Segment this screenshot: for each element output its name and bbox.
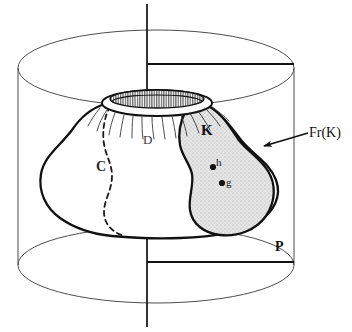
label-point-h: h xyxy=(216,157,222,168)
funnel-rim xyxy=(102,90,212,116)
figure-canvas xyxy=(0,0,352,332)
rim-inner-hatched-ellipse xyxy=(110,90,204,108)
shaded-region-k xyxy=(179,104,274,235)
label-c: C xyxy=(96,160,106,174)
label-frontier-k: Fr(K) xyxy=(309,126,341,140)
topology-figure: K C D P h g Fr(K) xyxy=(0,0,352,332)
label-d: D xyxy=(143,133,152,146)
label-p: P xyxy=(275,240,284,254)
label-k: K xyxy=(201,123,213,138)
point-g xyxy=(219,180,225,186)
label-point-g: g xyxy=(226,177,232,188)
frontier-arrow xyxy=(264,133,308,146)
